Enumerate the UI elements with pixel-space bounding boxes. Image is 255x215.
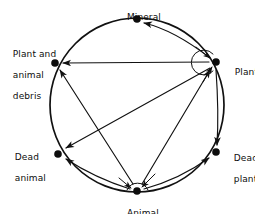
node-dead-plant[interactable] — [212, 148, 220, 156]
edge-animal-to-debris — [60, 70, 133, 184]
edge-animal-to-dead-plant — [144, 158, 209, 189]
node-dead-animal[interactable] — [54, 150, 62, 158]
label-dead-plant-line2: plant — [234, 174, 255, 184]
label-plant-text: Plant — [235, 67, 255, 77]
label-dead-animal: Dead animal — [3, 141, 51, 194]
label-debris-line3: debris — [13, 91, 41, 101]
node-plant[interactable] — [212, 58, 220, 66]
label-dead-plant: Dead plant — [222, 142, 255, 195]
cycle-diagram: Mineral Plant Dead plant Animal Dead ani… — [0, 0, 255, 214]
edge-layer — [60, 23, 218, 190]
label-dead-animal-line1: Dead — [15, 152, 39, 162]
label-debris: Plant and animal debris — [1, 38, 53, 112]
label-dead-plant-line1: Dead — [234, 153, 255, 163]
edge-plant-to-dead-animal — [66, 68, 210, 148]
edge-plant-to-debris — [63, 62, 209, 63]
label-dead-animal-line2: animal — [15, 173, 46, 183]
label-animal-text: Animal — [127, 208, 159, 215]
label-debris-line2: animal — [13, 70, 44, 80]
label-animal: Animal — [109, 197, 165, 214]
label-debris-line1: Plant and — [13, 49, 56, 59]
label-mineral-text: Mineral — [127, 12, 161, 22]
edge-plant-to-dead-plant — [216, 70, 218, 145]
label-mineral: Mineral — [110, 1, 166, 33]
label-plant: Plant — [223, 56, 255, 88]
node-animal[interactable] — [133, 187, 141, 195]
